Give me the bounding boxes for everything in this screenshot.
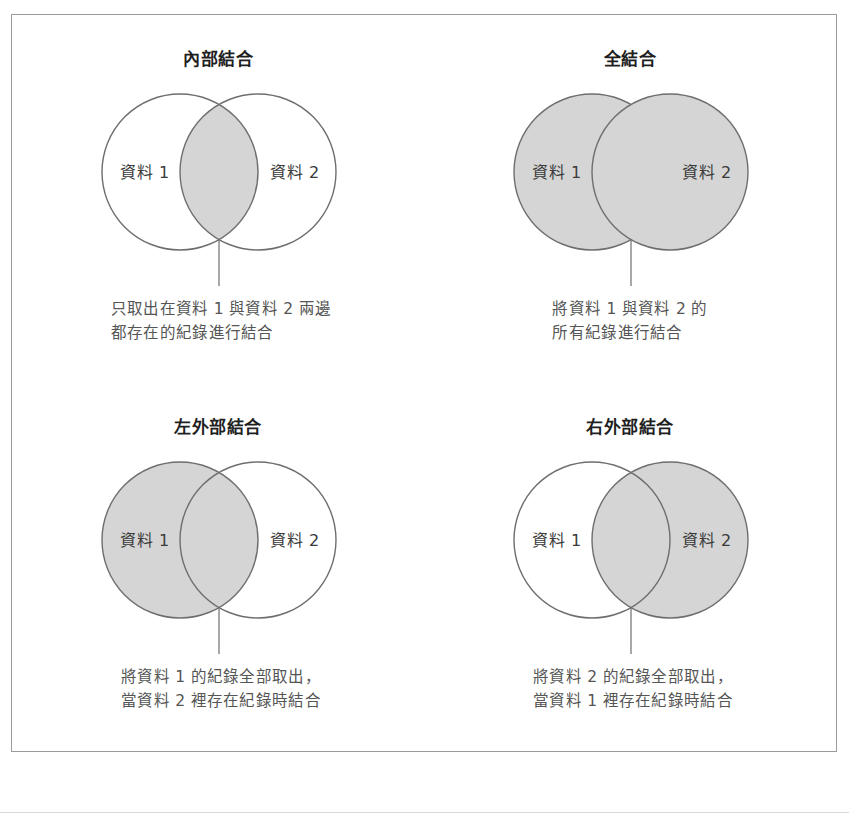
figure-frame: 內部結合 資料 1 資料 2 [11, 14, 837, 752]
panel-inner-join: 內部結合 資料 1 資料 2 [12, 15, 424, 383]
panel-title-left-outer-join: 左外部結合 [174, 413, 262, 438]
panel-right-outer-join: 右外部結合 資料 1 資料 2 將資料 2 的紀錄全部取出， 當資料 1 裡存在… [424, 383, 836, 751]
caption-inner-join: 只取出在資料 1 與資料 2 兩邊 都存在的紀錄進行結合 [111, 297, 332, 345]
cropped-footer-text [6, 817, 10, 825]
panel-title-inner-join: 內部結合 [183, 45, 253, 70]
panel-full-join: 全結合 資料 1 資料 2 將資料 1 與資料 2 的 所有紀錄進行結合 [424, 15, 836, 383]
venn-label-left: 資料 1 [532, 163, 582, 182]
venn-label-left: 資料 1 [120, 163, 170, 182]
venn-inner-join: 資料 1 資料 2 [48, 76, 388, 291]
venn-svg-full-join: 資料 1 資料 2 [460, 76, 800, 291]
venn-full-join: 資料 1 資料 2 [460, 76, 800, 291]
venn-right-outer-join: 資料 1 資料 2 [460, 444, 800, 659]
venn-label-right: 資料 2 [682, 163, 732, 182]
caption-full-join: 將資料 1 與資料 2 的 所有紀錄進行結合 [552, 297, 707, 345]
horizontal-rule [0, 812, 849, 813]
page-bottom-sliver [0, 812, 849, 829]
panel-title-full-join: 全結合 [604, 45, 657, 70]
caption-left-outer-join: 將資料 1 的紀錄全部取出， 當資料 2 裡存在紀錄時結合 [121, 665, 321, 713]
venn-svg-right-outer-join: 資料 1 資料 2 [460, 444, 800, 659]
venn-label-right: 資料 2 [270, 163, 320, 182]
venn-label-left: 資料 1 [532, 531, 582, 550]
caption-right-outer-join: 將資料 2 的紀錄全部取出， 當資料 1 裡存在紀錄時結合 [533, 665, 733, 713]
venn-diagram-grid: 內部結合 資料 1 資料 2 [12, 15, 836, 751]
panel-left-outer-join: 左外部結合 資料 1 資料 2 將資料 1 的紀錄全部取出， 當資料 2 裡存在… [12, 383, 424, 751]
venn-label-left: 資料 1 [120, 531, 170, 550]
venn-svg-left-outer-join: 資料 1 資料 2 [48, 444, 388, 659]
venn-svg-inner-join: 資料 1 資料 2 [48, 76, 388, 291]
venn-label-right: 資料 2 [682, 531, 732, 550]
panel-title-right-outer-join: 右外部結合 [586, 413, 674, 438]
venn-left-outer-join: 資料 1 資料 2 [48, 444, 388, 659]
venn-label-right: 資料 2 [270, 531, 320, 550]
